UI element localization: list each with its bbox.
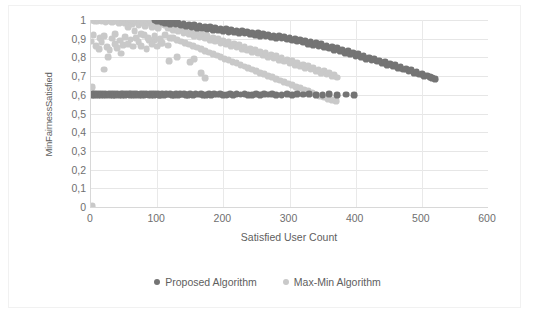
data-point: [326, 91, 333, 98]
y-axis-tick-label: 0,2: [46, 164, 86, 175]
y-axis-tick-label: 0,7: [46, 71, 86, 82]
data-point: [96, 46, 103, 53]
y-axis-tick-label: 0,8: [46, 52, 86, 63]
y-axis-tick-label: 1: [46, 15, 86, 26]
horizontal-gridline: [91, 207, 488, 208]
data-point: [164, 42, 171, 49]
data-point: [334, 74, 341, 81]
legend-label: Proposed Algorithm: [165, 276, 257, 288]
y-axis-tick-label: 0,9: [46, 33, 86, 44]
x-axis-tick-label: 300: [269, 213, 309, 224]
data-point: [432, 75, 439, 82]
legend-entry-1[interactable]: Proposed Algorithm: [154, 276, 257, 288]
legend-marker-icon: [283, 279, 289, 285]
y-axis-tick-label: 0,3: [46, 146, 86, 157]
scatter-chart-figure: MinFairnessSatisfied 00,10,20,30,40,50,6…: [0, 0, 535, 324]
chart-legend: Proposed AlgorithmMax-Min Algorithm: [0, 276, 535, 288]
data-point: [334, 92, 341, 99]
x-axis-tick-labels: 0100200300400500600: [90, 213, 488, 227]
data-point: [201, 75, 208, 82]
data-point: [351, 91, 358, 98]
plot-area: [90, 20, 488, 208]
x-axis-tick-label: 600: [467, 213, 507, 224]
legend-entry-2[interactable]: Max-Min Algorithm: [283, 276, 381, 288]
x-axis-tick-label: 400: [335, 213, 375, 224]
y-axis-tick-labels: 00,10,20,30,40,50,60,70,80,91: [44, 20, 86, 208]
x-axis-tick-label: 500: [401, 213, 441, 224]
y-axis-tick-label: 0: [46, 202, 86, 213]
data-point: [101, 66, 108, 73]
x-axis-title: Satisfied User Count: [90, 231, 488, 243]
y-axis-tick-label: 0,1: [46, 183, 86, 194]
vertical-gridline: [356, 20, 357, 207]
vertical-gridline: [290, 20, 291, 207]
data-point: [342, 91, 349, 98]
data-point: [166, 57, 173, 64]
data-point: [111, 31, 118, 38]
data-point: [191, 56, 198, 63]
x-axis-tick-label: 200: [202, 213, 242, 224]
vertical-gridline: [422, 20, 423, 207]
y-axis-tick-label: 0,4: [46, 127, 86, 138]
data-point: [174, 54, 181, 61]
data-point: [105, 54, 112, 61]
x-axis-tick-label: 0: [70, 213, 110, 224]
data-point: [101, 32, 108, 39]
y-axis-tick-label: 0,6: [46, 90, 86, 101]
legend-label: Max-Min Algorithm: [294, 276, 381, 288]
x-axis-title-label: Satisfied User Count: [241, 231, 337, 243]
legend-marker-icon: [154, 279, 160, 285]
y-axis-tick-label: 0,5: [46, 108, 86, 119]
x-axis-tick-label: 100: [136, 213, 176, 224]
data-point: [90, 203, 96, 208]
data-point: [90, 32, 97, 39]
data-point: [106, 47, 113, 54]
